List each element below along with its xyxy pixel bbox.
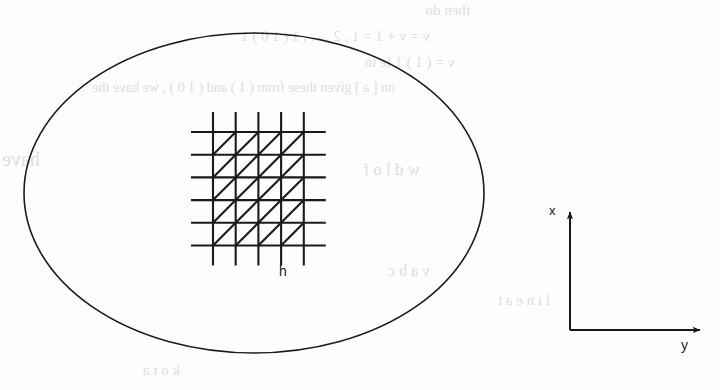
mesh-diagonal-line: [213, 223, 236, 246]
coordinate-axes: [570, 212, 700, 330]
mesh-diagonal-line: [213, 200, 236, 223]
mesh-diagonal-line: [281, 132, 304, 155]
mesh-diagonal-line: [258, 223, 281, 246]
mesh-diagonal-line: [236, 200, 259, 223]
triangular-finite-difference-mesh: [191, 112, 326, 266]
mesh-diagonal-line: [213, 177, 236, 200]
y-axis-label: y: [681, 337, 688, 353]
figure-drawing: [0, 0, 720, 390]
mesh-diagonal-line: [258, 200, 281, 223]
mesh-diagonal-line: [213, 132, 236, 155]
mesh-diagonal-line: [281, 223, 304, 246]
mesh-diagonal-line: [236, 155, 259, 178]
mesh-diagonal-line: [281, 155, 304, 178]
mesh-diagonal-line: [236, 223, 259, 246]
mesh-diagonal-line: [236, 132, 259, 155]
mesh-diagonal-line: [236, 177, 259, 200]
mesh-diagonal-line: [213, 155, 236, 178]
mesh-diagonal-line: [258, 155, 281, 178]
figure-container: then dov = v + 1 = 1 , 2 , ... , 1 ( 1 0…: [0, 0, 720, 390]
x-axis-label: x: [549, 203, 556, 218]
mesh-diagonal-line: [281, 177, 304, 200]
mesh-diagonal-line: [258, 132, 281, 155]
mesh-diagonal-line: [281, 200, 304, 223]
elliptical-domain-boundary: [24, 33, 484, 353]
mesh-spacing-label: h: [279, 263, 287, 279]
mesh-diagonal-line: [258, 177, 281, 200]
mesh-vertical-lines: [213, 112, 304, 266]
